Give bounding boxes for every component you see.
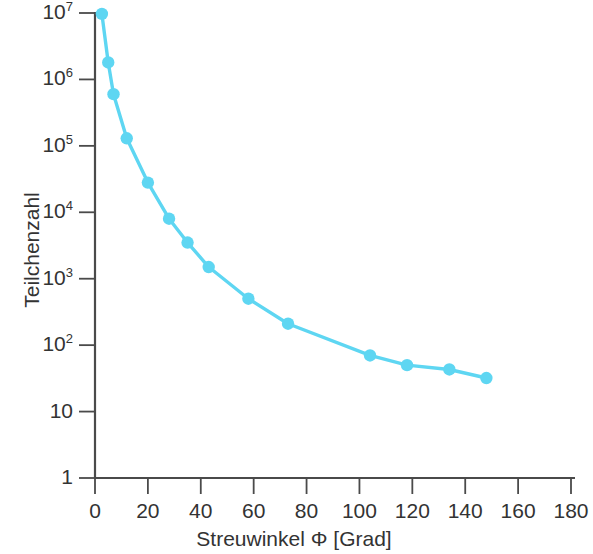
y-tick-label: 107: [42, 1, 73, 22]
data-point: [96, 8, 108, 20]
y-tick-label: 105: [42, 134, 73, 155]
data-point: [102, 56, 114, 68]
y-tick-label: 104: [42, 200, 73, 221]
y-tick-label: 10: [50, 400, 73, 421]
chart-axes: [95, 12, 575, 478]
x-tick-label: 180: [531, 500, 593, 521]
data-point: [282, 318, 294, 330]
x-axis-title: Streuwinkel Φ [Grad]: [0, 527, 588, 551]
data-point: [203, 261, 215, 273]
y-tick-label: 103: [42, 267, 73, 288]
y-tick-label: 1: [61, 466, 73, 487]
y-tick-label: 106: [42, 67, 73, 88]
y-axis-title: Teilchenzahl: [20, 170, 44, 330]
data-point: [107, 88, 119, 100]
data-point: [401, 359, 413, 371]
data-point: [142, 176, 154, 188]
data-point: [364, 349, 376, 361]
data-point: [242, 293, 254, 305]
data-point: [443, 363, 455, 375]
data-point: [181, 236, 193, 248]
chart-tick-marks: [79, 13, 571, 494]
data-point: [480, 372, 492, 384]
data-point: [121, 132, 133, 144]
data-point: [163, 213, 175, 225]
y-tick-label: 102: [42, 333, 73, 354]
